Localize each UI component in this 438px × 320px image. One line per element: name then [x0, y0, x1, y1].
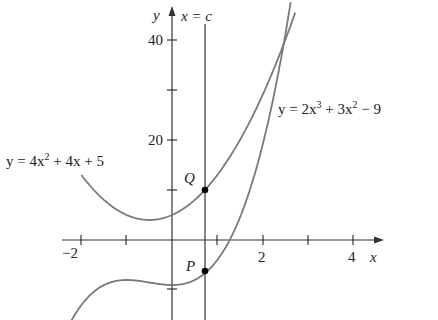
point-q-label: Q [184, 170, 195, 186]
cubic-equation-label: y = 2x3 + 3x2 − 9 [278, 99, 381, 117]
y-tick-label-20: 20 [148, 132, 163, 148]
vertical-line-label: x = c [180, 8, 212, 24]
figure: −2 2 4 x 20 40 y x = c Q P y = 4x2 + 4x … [0, 0, 438, 320]
point-q-marker [202, 187, 209, 194]
y-tick-label-40: 40 [148, 32, 163, 48]
cubic-curve [71, 2, 290, 320]
x-tick-label-2: 2 [258, 249, 266, 265]
plot-canvas: −2 2 4 x 20 40 y x = c Q P y = 4x2 + 4x … [0, 0, 438, 320]
x-axis-arrow-icon [374, 237, 384, 244]
parabola-curve [81, 13, 295, 220]
point-p-label: P [185, 258, 195, 274]
y-axis-arrow-icon [169, 6, 176, 16]
point-p-marker [202, 268, 209, 275]
x-tick-label-neg2: −2 [62, 245, 78, 261]
x-tick-label-4: 4 [348, 249, 356, 265]
parabola-equation-label: y = 4x2 + 4x + 5 [6, 151, 104, 169]
y-axis-label: y [151, 7, 160, 23]
x-axis-label: x [369, 249, 377, 265]
